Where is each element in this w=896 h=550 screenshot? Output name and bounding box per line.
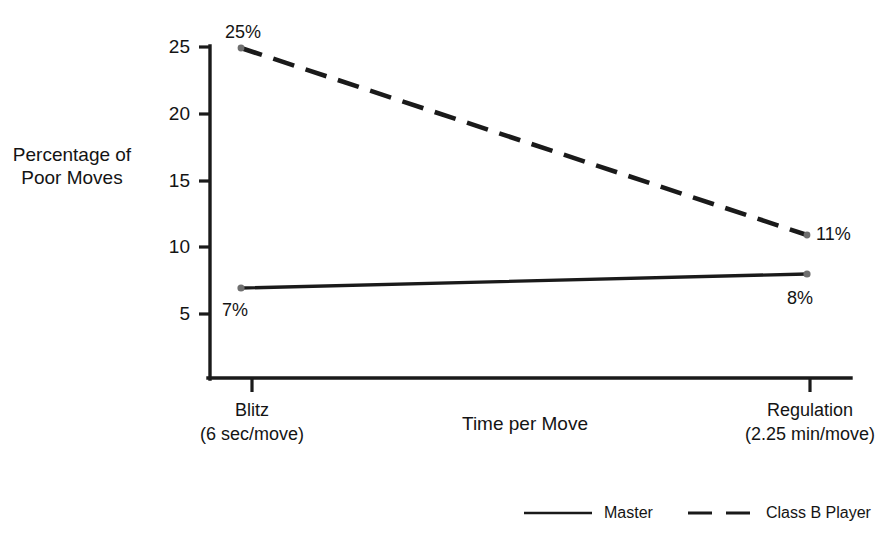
chart-plot-area [0, 0, 896, 550]
legend-label-class-b-player: Class B Player [766, 504, 871, 523]
marker-master-regulation [803, 270, 810, 277]
x-tick-label-blitz: Blitz [162, 400, 342, 421]
data-label-class-b-regulation: 11% [816, 224, 851, 245]
marker-master-blitz [237, 284, 244, 291]
y-tick-label-25: 25 [140, 36, 190, 58]
data-label-class-b-blitz: 25% [225, 22, 261, 43]
chart-container: 25 20 15 10 5 Percentage of Poor Moves B… [0, 0, 896, 550]
data-label-master-regulation: 8% [787, 288, 813, 309]
x-axis-title: Time per Move [435, 413, 615, 435]
y-tick-label-20: 20 [140, 103, 190, 125]
x-tick-sublabel-regulation: (2.25 min/move) [715, 424, 896, 445]
y-tick-label-15: 15 [140, 170, 190, 192]
marker-class-b-regulation [804, 232, 811, 239]
y-axis-title-line1: Percentage of [8, 144, 136, 166]
marker-class-b-blitz [238, 45, 245, 52]
y-axis-title-line2: Poor Moves [8, 167, 136, 189]
legend-label-master: Master [604, 504, 653, 523]
x-tick-sublabel-blitz: (6 sec/move) [162, 424, 342, 445]
y-tick-label-10: 10 [140, 236, 190, 258]
data-label-master-blitz: 7% [222, 300, 248, 321]
x-tick-label-regulation: Regulation [715, 400, 896, 421]
series-line-class-b-player [241, 48, 807, 235]
y-tick-label-5: 5 [140, 303, 190, 325]
series-line-master [241, 274, 807, 288]
